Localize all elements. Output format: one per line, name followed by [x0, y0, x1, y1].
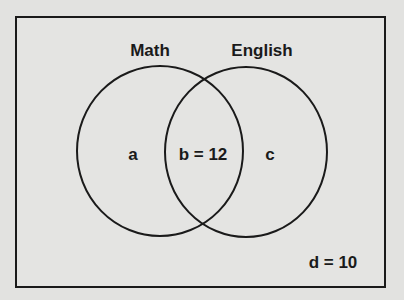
- intersection-label: b = 12: [179, 145, 228, 164]
- outside-label: d = 10: [309, 253, 358, 272]
- english-label: English: [231, 41, 292, 60]
- venn-diagram: Math English a b = 12 c d = 10: [0, 0, 404, 300]
- region-a-label: a: [128, 145, 138, 164]
- math-label: Math: [130, 41, 170, 60]
- region-c-label: c: [265, 145, 274, 164]
